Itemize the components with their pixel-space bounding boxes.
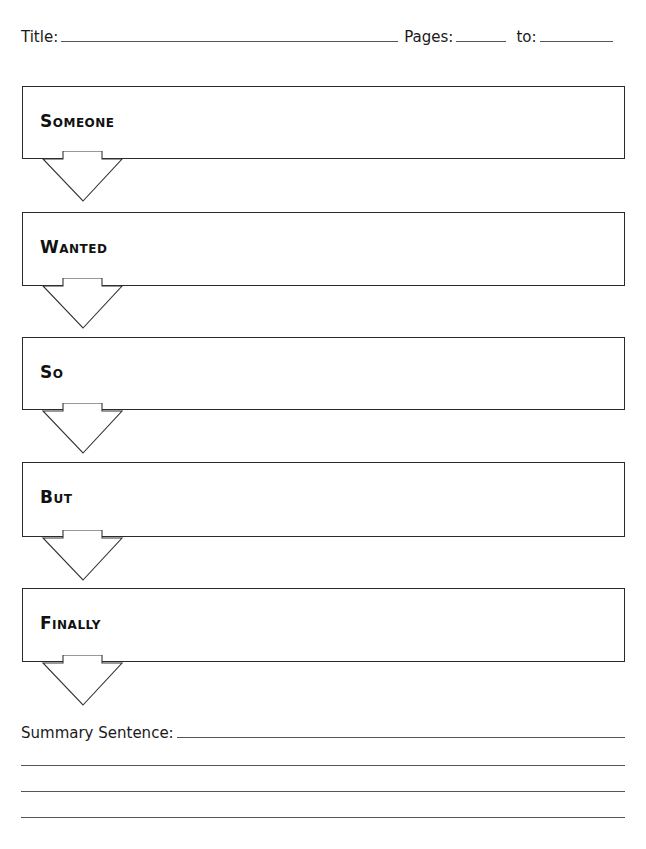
title-field[interactable] [61,41,398,42]
pages-label: Pages: [398,28,456,46]
summary-line[interactable] [21,765,625,766]
down-arrow-icon [40,530,126,582]
summary-label: Summary Sentence: [21,724,177,742]
header-row: Title: Pages: to: [21,24,625,46]
so-box[interactable]: So [22,337,625,410]
down-arrow-icon [40,403,126,455]
summary-row: Summary Sentence: [21,720,625,742]
someone-label: Someone [40,111,115,131]
down-arrow-icon [40,151,126,203]
summary-field[interactable] [177,737,625,738]
title-label: Title: [21,28,61,46]
down-arrow-icon [40,278,126,330]
someone-box[interactable]: Someone [22,86,625,159]
finally-label: Finally [40,613,101,633]
summary-line[interactable] [21,817,625,818]
wanted-label: Wanted [40,237,107,257]
summary-line[interactable] [21,791,625,792]
pages-from-field[interactable] [456,41,506,42]
down-arrow-icon [40,655,126,707]
pages-to-label: to: [506,28,539,46]
wanted-box[interactable]: Wanted [22,212,625,286]
finally-box[interactable]: Finally [22,588,625,662]
but-label: But [40,487,72,507]
but-box[interactable]: But [22,462,625,537]
pages-to-field[interactable] [540,41,613,42]
so-label: So [40,362,63,382]
